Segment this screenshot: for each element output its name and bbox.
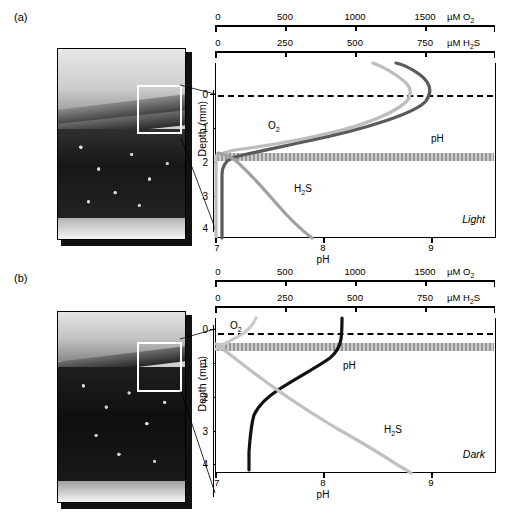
o2-tick-500: 500: [277, 11, 293, 22]
o2-tick-1000: 1000: [344, 11, 365, 22]
o2-axis-b: 0 500 1000 1500 µM O2: [215, 266, 495, 292]
ph-axis-title-b: pH: [317, 489, 330, 500]
ph-tick-9-b: 9: [428, 477, 433, 488]
o2-tick-500: 500: [277, 266, 293, 277]
h2s-tick-500: 500: [347, 37, 363, 48]
ph-axis-a: 7 8 9: [215, 238, 496, 264]
depth-tick-1-b: 1: [202, 358, 208, 369]
o2-axis-a: 0 500 1000 1500 µM O2: [215, 11, 495, 37]
ph-curve-label-a: pH: [431, 133, 444, 144]
h2s-axis-b: 0 250 500 750 µM H2S: [215, 292, 495, 318]
o2-curve-label-a: O2: [268, 120, 280, 134]
ph-tick-7-a: 7: [214, 242, 219, 253]
panel-b: (b) 0 500 1000 1500 µM O2: [0, 266, 520, 524]
profile-plot-a: O2 pH H2S Light: [215, 63, 496, 238]
depth-tick-1-a: 1: [202, 123, 208, 134]
ph-tick-9-a: 9: [428, 242, 433, 253]
ph-tick-8-b: 8: [320, 477, 325, 488]
o2-curve-a: [216, 63, 410, 238]
depth-tick-3-b: 3: [202, 426, 208, 437]
profile-plot-b: O2 pH H2S Dark: [215, 318, 496, 473]
ph-tick-8-a: 8: [320, 242, 325, 253]
h2s-tick-0: 0: [215, 37, 220, 48]
h2s-curve-label-a: H2S: [294, 183, 312, 197]
depth-tick-4-a: 4: [202, 223, 208, 234]
depth-tick-3-a: 3: [202, 191, 208, 202]
o2-tick-0: 0: [215, 11, 220, 22]
depth-tick-2-a: 2: [202, 157, 208, 168]
h2s-tick-250: 250: [277, 37, 293, 48]
curves-a: [216, 63, 497, 238]
ph-axis-b: 7 8 9: [215, 473, 496, 499]
h2s-curve-b: [216, 344, 411, 473]
h2s-curve-label-b: H2S: [384, 424, 402, 438]
h2s-axis-unit: µM H2S: [447, 292, 480, 305]
condition-label-dark: Dark: [463, 448, 485, 460]
o2-tick-1500: 1500: [414, 266, 435, 277]
o2-curve-label-b: O2: [230, 320, 242, 334]
depth-tick-0-a: 0: [202, 89, 208, 100]
depth-tick-4-b: 4: [202, 459, 208, 470]
ph-curve-b: [249, 318, 342, 470]
h2s-tick-250: 250: [277, 292, 293, 303]
panel-a: (a) 0 500 1000 1500 µM O2: [0, 5, 520, 263]
h2s-tick-0: 0: [215, 292, 220, 303]
ph-axis-title-a: pH: [317, 254, 330, 265]
o2-tick-1500: 1500: [414, 11, 435, 22]
depth-tick-2-b: 2: [202, 392, 208, 403]
condition-label-light: Light: [462, 213, 485, 225]
ph-curve-a: [222, 63, 430, 238]
o2-axis-unit: µM O2: [447, 266, 474, 279]
o2-tick-0: 0: [215, 266, 220, 277]
h2s-axis-unit: µM H2S: [447, 37, 480, 50]
ph-curve-label-b: pH: [343, 360, 356, 371]
depth-tick-0-b: 0: [202, 324, 208, 335]
o2-tick-1000: 1000: [344, 266, 365, 277]
h2s-tick-750: 750: [417, 37, 433, 48]
ph-tick-7-b: 7: [214, 477, 219, 488]
o2-axis-unit: µM O2: [447, 11, 474, 24]
curves-b: [216, 318, 497, 473]
h2s-axis-a: 0 250 500 750 µM H2S: [215, 37, 495, 63]
h2s-tick-750: 750: [417, 292, 433, 303]
h2s-tick-500: 500: [347, 292, 363, 303]
